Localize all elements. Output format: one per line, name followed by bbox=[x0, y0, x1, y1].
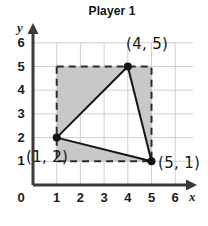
y-tick-5: 5 bbox=[14, 59, 28, 74]
x-axis-label: x bbox=[189, 189, 196, 205]
vertex-marker-4-5 bbox=[124, 63, 132, 71]
point-label-1-2: (1, 2) bbox=[26, 148, 68, 166]
vertex-marker-5-1 bbox=[148, 157, 156, 165]
y-tick-4: 4 bbox=[14, 82, 28, 97]
x-tick-5: 5 bbox=[145, 190, 159, 205]
y-axis-label: y bbox=[17, 20, 23, 36]
y-tick-6: 6 bbox=[14, 35, 28, 50]
coordinate-plane-figure: Player 1 6 5 4 3 2 1 0 1 2 3 4 5 6 y x (… bbox=[0, 0, 208, 226]
vertex-marker-1-2 bbox=[53, 134, 61, 142]
x-tick-2: 2 bbox=[73, 190, 87, 205]
origin-tick-0: 0 bbox=[14, 190, 28, 205]
y-axis-arrow bbox=[28, 23, 39, 34]
point-label-4-5: (4, 5) bbox=[126, 35, 168, 53]
x-tick-3: 3 bbox=[97, 190, 111, 205]
x-tick-1: 1 bbox=[50, 190, 64, 205]
y-tick-2: 2 bbox=[14, 130, 28, 145]
x-tick-6: 6 bbox=[168, 190, 182, 205]
chart-title: Player 1 bbox=[62, 4, 162, 18]
x-tick-4: 4 bbox=[121, 190, 135, 205]
y-tick-3: 3 bbox=[14, 106, 28, 121]
point-label-5-1: (5, 1) bbox=[158, 154, 200, 172]
